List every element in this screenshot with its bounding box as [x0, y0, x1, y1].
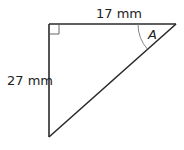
- angle-arc: [138, 24, 148, 49]
- left-side-label: 27 mm: [7, 74, 53, 87]
- top-side-label: 17 mm: [96, 7, 142, 20]
- angle-a-label: A: [148, 28, 157, 41]
- right-angle-marker: [49, 24, 59, 34]
